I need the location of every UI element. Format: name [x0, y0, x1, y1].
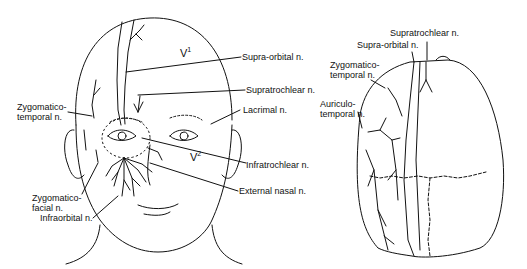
leader-lines-right	[358, 42, 427, 128]
infraorbital-nerve-branches	[96, 148, 162, 196]
leader-lines-left	[68, 57, 246, 218]
scalp-outline	[357, 56, 503, 257]
label-infraorbital-nerve: Infraorbital n.	[40, 213, 93, 223]
label-right-supratrochlear-nerve: Supratrochlear n.	[390, 28, 459, 38]
v2-region-label: V2	[190, 150, 201, 163]
label-lacrimal-nerve: Lacrimal n.	[243, 105, 287, 115]
label-auriculotemporal-nerve: Auriculo- temporal n.	[320, 99, 365, 119]
v1-region-label: V1	[180, 46, 191, 59]
trigeminal-nerve-diagram: V1 V2 Supra-orbital n. Supratrochlear n.…	[0, 0, 527, 269]
line-drawing	[0, 0, 527, 269]
label-external-nasal-nerve: External nasal n.	[239, 186, 306, 196]
label-right-supra-orbital-nerve: Supra-orbital n.	[357, 40, 419, 50]
label-supratrochlear-nerve: Supratrochlear n.	[246, 85, 315, 95]
label-right-zygomaticotemporal-nerve: Zygomatico- temporal n.	[330, 60, 380, 80]
label-zygomaticofacial-nerve: Zygomatico- facial n.	[32, 193, 82, 213]
label-infratrochlear-nerve: Infratrochlear n.	[246, 160, 309, 170]
supraorbital-nerve-branches	[84, 20, 144, 150]
label-zygomaticotemporal-nerve: Zygomatico- temporal n.	[17, 102, 67, 122]
label-supra-orbital-nerve: Supra-orbital n.	[242, 52, 304, 62]
